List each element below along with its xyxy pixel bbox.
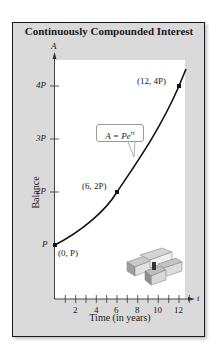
- x-axis-title: Time (in years): [55, 312, 185, 323]
- formula-exponent: rt: [131, 130, 135, 136]
- x-axis-variable: t: [197, 293, 200, 303]
- point-label-12: (12, 4P): [137, 76, 166, 86]
- y-tick-p: P: [42, 239, 48, 249]
- y-axis-title: Balance: [30, 168, 41, 218]
- point-label-6: (6, 2P): [82, 181, 107, 191]
- formula-text: A = Pe: [105, 131, 130, 141]
- y-tick-3p: 3P: [36, 133, 46, 143]
- money-stack-icon: [127, 248, 182, 285]
- y-axis-variable: A: [51, 41, 57, 51]
- y-tick-4p: 4P: [36, 80, 46, 90]
- point-label-0: (0, P): [58, 248, 78, 258]
- formula-callout: A = Pert: [96, 124, 144, 142]
